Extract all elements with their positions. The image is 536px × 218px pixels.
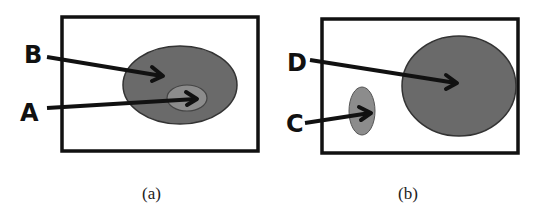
caption-a: (a) xyxy=(142,184,161,203)
label-c: C xyxy=(286,110,304,138)
label-d: D xyxy=(287,49,307,77)
panel-b: D C (b) xyxy=(286,19,518,203)
label-a: A xyxy=(20,99,39,127)
panel-a: B A (a) xyxy=(20,17,258,203)
caption-b: (b) xyxy=(398,184,418,203)
diagram-canvas: B A (a) D C (b) xyxy=(0,0,536,218)
region-d xyxy=(402,36,516,136)
label-b: B xyxy=(24,41,42,69)
region-b xyxy=(123,46,237,124)
